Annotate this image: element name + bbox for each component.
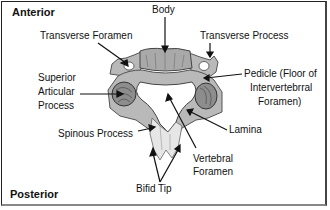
label-superior-articular-process-line3: Process [38, 100, 74, 112]
label-transverse-foramen: Transverse Foramen [40, 30, 132, 42]
label-vertebral-foramen-line1: Vertebral [193, 153, 233, 165]
label-pedicle-line2: Intervertebrral [250, 82, 312, 94]
label-superior-articular-process-line2: Articular [38, 86, 75, 98]
label-bifid-tip: Bifid Tip [136, 183, 172, 195]
label-lamina: Lamina [229, 124, 262, 136]
label-pedicle-line1: Pedicle (Floor of [244, 68, 317, 80]
label-vertebral-foramen-line2: Foramen [193, 166, 233, 178]
label-pedicle-line3: Foramen) [258, 96, 301, 108]
label-superior-articular-process-line1: Superior [38, 72, 76, 84]
label-body: Body [152, 4, 175, 16]
label-transverse-process: Transverse Process [200, 30, 289, 42]
anterior-label: Anterior [12, 6, 55, 18]
posterior-label: Posterior [10, 188, 58, 200]
label-spinous-process: Spinous Process [58, 128, 133, 140]
